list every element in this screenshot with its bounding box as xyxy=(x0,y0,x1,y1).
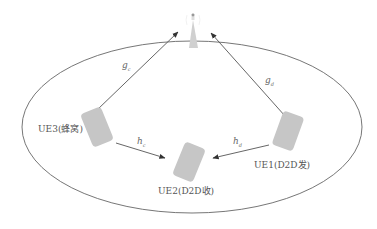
label-gc: gc xyxy=(122,61,131,72)
base-station-icon xyxy=(186,14,200,48)
label-hd: hd xyxy=(233,137,242,148)
ue1-label: UE1(D2D发) xyxy=(254,161,310,170)
label-gd: gd xyxy=(265,76,274,87)
ue2-label: UE2(D2D收) xyxy=(158,187,214,196)
label-hc: hc xyxy=(137,137,146,148)
link-gc-arrow xyxy=(97,32,178,110)
ue3-device-icon xyxy=(80,106,114,148)
ue3-label: UE3(蜂窝) xyxy=(38,125,83,134)
ue2-device-icon xyxy=(172,141,206,183)
ue1-device-icon xyxy=(272,110,305,151)
